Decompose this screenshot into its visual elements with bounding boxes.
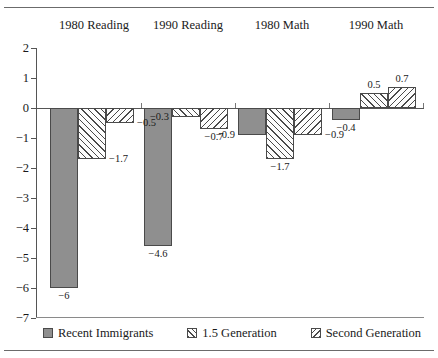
- plot-area: 210−1−2−3−4−5−6−7 −6−4.6−0.9−0.4−1.7−0.3…: [36, 48, 426, 318]
- bar: [332, 108, 360, 120]
- y-axis-tick-label: 1: [23, 72, 29, 85]
- y-axis-tick-label: −4: [16, 222, 29, 235]
- y-axis-tick: [31, 288, 36, 289]
- bar: [78, 108, 106, 159]
- y-axis-tick-label: 2: [23, 42, 29, 55]
- x-axis-separator-tick: [141, 103, 142, 108]
- chart-legend: Recent Immigrants1.5 GenerationSecond Ge…: [36, 322, 428, 344]
- y-axis-tick: [31, 108, 36, 109]
- figure-top-rule: [4, 7, 434, 8]
- legend-swatch-icon: [43, 328, 53, 338]
- bar-value-label: −0.5: [137, 118, 156, 129]
- category-label-3: 1990 Math: [332, 16, 420, 34]
- y-axis-line: [36, 48, 37, 318]
- legend-label: Second Generation: [326, 327, 421, 340]
- y-axis-tick-label: −2: [16, 162, 29, 175]
- bar: [50, 108, 78, 288]
- y-axis-tick: [31, 78, 36, 79]
- y-axis-tick: [31, 228, 36, 229]
- legend-item-0[interactable]: Recent Immigrants: [43, 327, 153, 340]
- x-axis-separator-tick: [235, 103, 236, 108]
- category-labels: 1980 Reading1990 Reading1980 Math1990 Ma…: [36, 16, 428, 36]
- legend-item-1[interactable]: 1.5 Generation: [187, 327, 276, 340]
- y-axis-tick-label: −5: [16, 252, 29, 265]
- y-axis-tick: [31, 258, 36, 259]
- category-label-0: 1980 Reading: [50, 16, 138, 34]
- bar-value-label: −1.7: [109, 154, 128, 165]
- y-axis-tick: [31, 138, 36, 139]
- bar: [360, 93, 388, 108]
- y-axis-tick-label: −6: [16, 282, 29, 295]
- y-axis-tick-label: 0: [23, 102, 29, 115]
- y-axis-tick: [31, 168, 36, 169]
- bar-value-label: −0.7: [204, 132, 223, 143]
- bar-value-label: −6: [58, 291, 69, 302]
- x-axis-line: [36, 317, 424, 318]
- figure-container: 1980 Reading1990 Reading1980 Math1990 Ma…: [0, 0, 438, 358]
- bar: [200, 108, 228, 129]
- legend-label: 1.5 Generation: [202, 327, 276, 340]
- bar: [106, 108, 134, 123]
- y-axis-tick-label: −7: [16, 312, 29, 325]
- bar-value-label: −0.9: [325, 130, 344, 141]
- bar-value-label: 0.5: [367, 80, 380, 91]
- bar: [144, 108, 172, 246]
- y-axis-tick: [31, 318, 36, 319]
- bar-value-label: 0.7: [395, 74, 408, 85]
- figure-bottom-rule: [4, 350, 434, 351]
- legend-swatch-icon: [311, 328, 321, 338]
- category-label-2: 1980 Math: [238, 16, 326, 34]
- bar-value-label: −1.7: [270, 162, 289, 173]
- y-axis-tick-label: −3: [16, 192, 29, 205]
- bar-value-label: −4.6: [148, 249, 167, 260]
- legend-item-2[interactable]: Second Generation: [311, 327, 421, 340]
- legend-label: Recent Immigrants: [58, 327, 153, 340]
- bar: [238, 108, 266, 135]
- bar: [172, 108, 200, 117]
- x-axis-separator-tick: [423, 103, 424, 108]
- legend-swatch-icon: [187, 328, 197, 338]
- y-axis-tick-label: −1: [16, 132, 29, 145]
- bar: [266, 108, 294, 159]
- y-axis-tick: [31, 198, 36, 199]
- y-axis-tick: [31, 48, 36, 49]
- bar: [388, 87, 416, 108]
- x-axis-separator-tick: [329, 103, 330, 108]
- bar: [294, 108, 322, 135]
- category-label-1: 1990 Reading: [144, 16, 232, 34]
